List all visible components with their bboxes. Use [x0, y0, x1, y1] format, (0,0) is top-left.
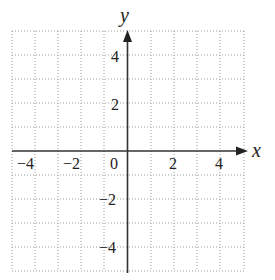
- y-tick-4: 4: [111, 48, 119, 65]
- coordinate-plane: x y −4 −2 0 2 4 4 2 −2 −4: [0, 0, 275, 280]
- y-tick-2: 2: [111, 96, 119, 113]
- x-tick-2: 2: [169, 155, 177, 172]
- y-tick-neg4: −4: [99, 239, 116, 256]
- y-axis-label: y: [118, 4, 129, 27]
- x-tick-neg4: −4: [17, 155, 34, 172]
- y-axis-arrow-icon: [123, 30, 132, 42]
- y-tick-neg2: −2: [99, 191, 116, 208]
- x-tick-4: 4: [215, 155, 223, 172]
- x-axis-label: x: [251, 139, 261, 161]
- x-tick-neg2: −2: [63, 155, 80, 172]
- x-axis-arrow-icon: [236, 147, 248, 156]
- x-tick-0: 0: [110, 155, 118, 172]
